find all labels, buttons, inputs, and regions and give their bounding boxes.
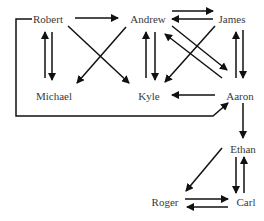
node-carl: Carl bbox=[237, 197, 256, 208]
edge-andrew-aaron bbox=[172, 26, 227, 70]
edge-andrew-michael bbox=[77, 27, 126, 83]
node-andrew: Andrew bbox=[130, 14, 165, 25]
directed-graph-diagram: Robert Andrew James Michael Kyle Aaron E… bbox=[0, 0, 264, 221]
edges-layer bbox=[0, 0, 264, 221]
node-aaron: Aaron bbox=[226, 91, 254, 102]
node-james: James bbox=[219, 14, 246, 25]
node-michael: Michael bbox=[36, 91, 72, 102]
node-roger: Roger bbox=[152, 197, 179, 208]
node-ethan: Ethan bbox=[230, 144, 256, 155]
node-robert: Robert bbox=[33, 14, 63, 25]
edge-ethan-roger bbox=[186, 148, 222, 191]
node-kyle: Kyle bbox=[138, 91, 159, 102]
